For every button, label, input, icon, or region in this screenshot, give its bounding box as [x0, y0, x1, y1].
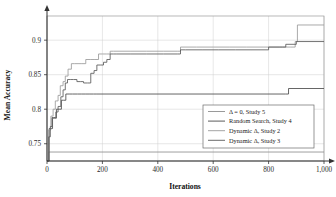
chart-figure: 0.750.80.850.9 02004006008001,000 Mean A…	[0, 0, 336, 197]
y-tick-label: 0.9	[32, 37, 41, 45]
y-tick-label: 0.8	[32, 106, 41, 114]
series-line-delta-0-study-5	[47, 152, 324, 161]
line-chart: 0.750.80.850.9 02004006008001,000 Mean A…	[0, 0, 336, 197]
x-tick-label: 600	[208, 166, 219, 174]
x-tick-label: 1,000	[316, 166, 333, 174]
legend-label-random-search-study-4: Random Search, Study 4	[229, 117, 292, 124]
x-axis-title: Iterations	[169, 182, 201, 191]
y-tick-label: 0.75	[28, 140, 41, 148]
legend-label-delta-0-study-5: Δ = 0, Study 5	[229, 108, 265, 115]
legend-label-dynamic-delta-study-2: Dynamic Δ, Study 2	[229, 127, 280, 134]
x-tick-label: 200	[97, 166, 108, 174]
x-axis-ticks: 02004006008001,000	[45, 161, 332, 174]
y-axis-ticks: 0.750.80.850.9	[28, 37, 47, 149]
x-tick-label: 400	[152, 166, 163, 174]
chart-legend: Δ = 0, Study 5Random Search, Study 4Dyna…	[203, 105, 314, 148]
y-axis-arrow	[44, 5, 49, 11]
x-tick-label: 0	[45, 166, 49, 174]
x-axis-arrow	[329, 158, 335, 163]
legend-label-dynamic-delta-study-3: Dynamic Δ, Study 3	[229, 137, 280, 144]
y-axis-title: Mean Accuracy	[3, 69, 12, 120]
y-tick-label: 0.85	[28, 71, 41, 79]
x-tick-label: 800	[263, 166, 274, 174]
